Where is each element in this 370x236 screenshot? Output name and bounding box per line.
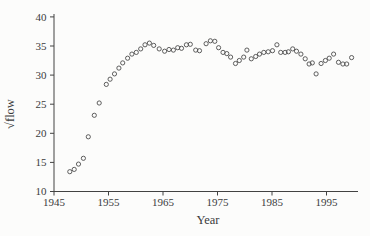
x-tick-label: 1975 xyxy=(207,196,230,208)
data-point xyxy=(270,49,274,53)
data-point xyxy=(213,39,217,43)
data-point xyxy=(245,48,249,52)
data-point xyxy=(208,39,212,43)
x-tick-label: 1945 xyxy=(43,196,66,208)
data-point xyxy=(319,61,323,65)
data-point xyxy=(242,55,246,59)
data-point xyxy=(108,77,112,81)
data-point xyxy=(299,52,303,56)
y-tick-label: 35 xyxy=(36,40,48,52)
scatter-plot: 10152025303540 194519551965197519851995 … xyxy=(0,0,370,236)
data-point xyxy=(314,72,318,76)
y-tick-label: 25 xyxy=(36,98,48,110)
data-point xyxy=(130,52,134,56)
y-axis-ticks: 10152025303540 xyxy=(36,11,55,198)
data-point xyxy=(157,47,161,51)
data-point xyxy=(152,43,156,47)
data-point xyxy=(143,43,147,47)
axes xyxy=(54,14,358,192)
data-point xyxy=(350,56,354,60)
data-point xyxy=(112,72,116,76)
data-point xyxy=(336,60,340,64)
chart-figure: 10152025303540 194519551965197519851995 … xyxy=(0,0,370,236)
data-point xyxy=(147,41,151,45)
data-point xyxy=(225,52,229,56)
data-point xyxy=(121,61,125,65)
x-tick-label: 1995 xyxy=(316,196,339,208)
data-point xyxy=(76,162,80,166)
y-tick-label: 20 xyxy=(36,127,48,139)
data-point xyxy=(92,113,96,117)
data-point xyxy=(257,52,261,56)
data-point xyxy=(217,46,221,50)
data-point xyxy=(262,50,266,54)
data-point xyxy=(97,101,101,105)
data-point xyxy=(163,49,167,53)
data-point xyxy=(327,56,331,60)
data-point xyxy=(126,56,130,60)
data-point xyxy=(171,48,175,52)
data-point xyxy=(275,43,279,47)
x-tick-label: 1955 xyxy=(98,196,121,208)
x-axis-label: Year xyxy=(196,213,220,227)
data-point xyxy=(134,50,138,54)
data-point xyxy=(279,50,283,54)
data-point xyxy=(72,167,76,171)
data-points xyxy=(68,39,354,174)
y-tick-label: 30 xyxy=(36,69,48,81)
y-tick-label: 15 xyxy=(36,156,48,168)
data-point xyxy=(294,49,298,53)
data-point xyxy=(86,135,90,139)
data-point xyxy=(117,66,121,70)
data-point xyxy=(266,50,270,54)
data-point xyxy=(81,156,85,160)
data-point xyxy=(233,61,237,65)
x-axis-ticks: 194519551965197519851995 xyxy=(43,192,338,209)
data-point xyxy=(167,47,171,51)
data-point xyxy=(139,47,143,51)
x-tick-label: 1965 xyxy=(152,196,175,208)
data-point xyxy=(332,52,336,56)
y-tick-label: 40 xyxy=(36,11,48,23)
data-point xyxy=(68,170,72,174)
x-tick-label: 1985 xyxy=(261,196,284,208)
data-point xyxy=(104,82,108,86)
y-axis-label: √flow xyxy=(3,99,17,129)
data-point xyxy=(237,58,241,62)
data-point xyxy=(303,57,307,61)
data-point xyxy=(229,55,233,59)
data-point xyxy=(204,42,208,46)
data-point xyxy=(249,57,253,61)
